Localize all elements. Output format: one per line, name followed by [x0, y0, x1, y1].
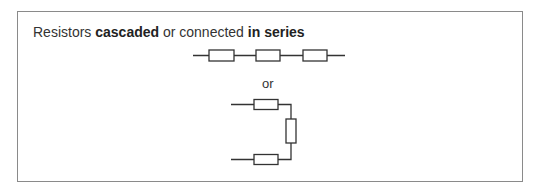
resistor-diagram	[0, 0, 540, 193]
resistor-bottom	[254, 155, 278, 165]
resistor-1	[209, 50, 234, 61]
resistor-2	[256, 50, 280, 61]
resistor-3	[303, 50, 327, 61]
resistor-top	[254, 100, 278, 110]
resistor-vertical	[286, 119, 296, 143]
folded-chain	[231, 100, 296, 165]
or-label: or	[262, 76, 274, 91]
series-chain	[193, 50, 345, 61]
